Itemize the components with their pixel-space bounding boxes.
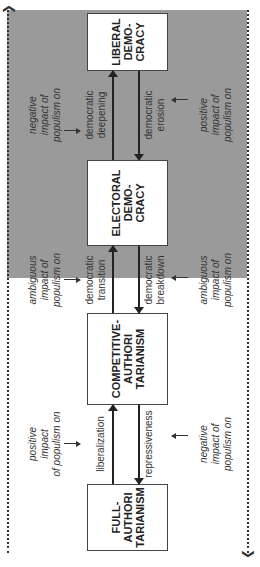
arrow-democratic-deepening: [112, 71, 114, 160]
impact-arrow-icon: [64, 130, 80, 131]
label-democratic-breakdown: democratic breakdown: [143, 248, 167, 312]
arrow-democratic-breakdown: [138, 246, 140, 313]
regime-box-electoral-democracy: ELECTORAL DEMO- CRACY: [87, 160, 168, 246]
impact-arrow-icon: [172, 277, 188, 278]
impact-arrow-icon: [64, 443, 80, 444]
regime-label: COMPETITIVE- AUTHORI TARIANISM: [110, 320, 146, 398]
regime-label: FULL- AUTHORI TARIANISM: [110, 487, 146, 547]
label-democratic-transition: democratic transition: [84, 248, 108, 312]
label-democratic-deepening: democratic deepening: [84, 73, 108, 157]
regime-box-full-authoritarianism: FULL- AUTHORI TARIANISM: [87, 484, 168, 551]
label-repressiveness: repressiveness: [143, 406, 155, 482]
regime-transition-diagram: ❯ ❮ FULL- AUTHORI TARIANISM COMPETITIVE-…: [0, 0, 260, 567]
impact-on-democratic-transition: ambiguous impact of populism on: [27, 248, 63, 312]
impact-on-democratic-erosion: positive impact of populism on: [198, 73, 234, 157]
impact-arrow-icon: [172, 435, 188, 436]
dotted-axis-bottom: [247, 10, 249, 553]
arrow-repressiveness: [138, 405, 140, 484]
regime-label: LIBERAL DEMO- CRACY: [110, 18, 146, 66]
regime-box-competitive-authoritarianism: COMPETITIVE- AUTHORI TARIANISM: [87, 313, 168, 405]
arrow-democratic-erosion: [138, 71, 140, 160]
regime-box-liberal-democracy: LIBERAL DEMO- CRACY: [87, 13, 168, 71]
dotted-axis-arrowhead-icon: ❯: [2, 4, 14, 14]
impact-arrow-icon: [172, 99, 188, 100]
label-liberalization: liberalization: [95, 406, 107, 482]
impact-on-liberalization: positive impact of populism on: [27, 406, 63, 482]
arrow-liberalization: [112, 405, 114, 484]
dotted-axis-top: [7, 10, 9, 553]
impact-arrow-icon: [64, 279, 80, 280]
dotted-axis-arrowhead-icon: ❮: [241, 549, 253, 559]
impact-on-democratic-breakdown: ambiguous impact of populism on: [198, 248, 234, 312]
regime-label: ELECTORAL DEMO- CRACY: [110, 169, 146, 236]
impact-on-democratic-deepening: negative impact of populism on: [27, 73, 63, 157]
impact-on-repressiveness: negative impact of populism on: [198, 406, 234, 482]
label-democratic-erosion: democratic erosion: [143, 73, 167, 157]
arrow-democratic-transition: [112, 246, 114, 313]
